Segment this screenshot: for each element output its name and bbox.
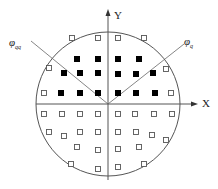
hollow-square [96, 112, 101, 117]
hollow-square [96, 148, 101, 153]
phi-qq-label: φqq [9, 37, 21, 50]
hollow-square [116, 147, 121, 152]
y-axis-label: Y [114, 10, 122, 21]
hollow-square [60, 112, 65, 117]
hollow-square [47, 66, 52, 71]
phi-q-label: φq [184, 36, 193, 49]
hollow-square [142, 36, 147, 41]
filled-square [115, 56, 121, 62]
hollow-square [96, 130, 101, 135]
hollow-square [69, 162, 74, 167]
hollow-square [169, 91, 174, 96]
hollow-square [47, 130, 52, 135]
hollow-square [137, 145, 142, 150]
hollow-square [116, 165, 121, 170]
hollow-square [164, 67, 169, 72]
hollow-square [164, 138, 169, 143]
hollow-square [70, 36, 75, 41]
filled-square [133, 71, 139, 77]
hollow-square [116, 36, 121, 41]
filled-square [152, 90, 158, 96]
hollow-square [96, 36, 101, 41]
filled-square [115, 90, 121, 96]
y-axis-arrow-icon [106, 9, 111, 16]
phi-qq-subscript: qq [15, 44, 21, 50]
x-axis-arrow-icon [191, 102, 198, 107]
filled-square [74, 56, 80, 62]
filled-square [95, 70, 101, 76]
hollow-square [170, 112, 175, 117]
filled-square [95, 56, 101, 62]
hollow-square [152, 112, 157, 117]
hollow-square [42, 112, 47, 117]
hollow-square [116, 130, 121, 135]
constellation-diagram [0, 0, 218, 189]
hollow-square [75, 145, 80, 150]
x-axis-label: X [202, 98, 210, 109]
hollow-square [78, 130, 83, 135]
phi-q-subscript: q [190, 43, 193, 49]
hollow-square [78, 112, 83, 117]
filled-square [150, 70, 156, 76]
filled-square [61, 70, 67, 76]
hollow-square [150, 133, 155, 138]
hollow-square [133, 112, 138, 117]
hollow-square [134, 130, 139, 135]
filled-square [77, 70, 83, 76]
hollow-square [96, 167, 101, 172]
hollow-square [62, 134, 67, 139]
filled-square [136, 56, 142, 62]
hollow-square [42, 91, 47, 96]
filled-square [58, 90, 64, 96]
filled-square [95, 90, 101, 96]
filled-square [77, 90, 83, 96]
hollow-square [116, 112, 121, 117]
filled-square [133, 90, 139, 96]
hollow-square [142, 162, 147, 167]
filled-square [115, 71, 121, 77]
